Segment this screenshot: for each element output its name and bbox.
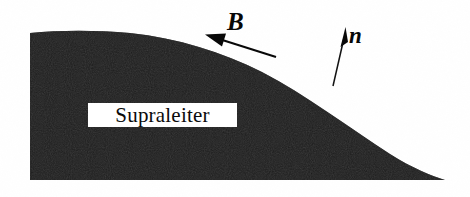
superconductor-label-text: Supraleiter xyxy=(115,105,209,126)
superconductor-label-box: Supraleiter xyxy=(88,103,237,127)
surface-normal-vector-label: n xyxy=(349,24,362,47)
figure-root: Supraleiter B n xyxy=(0,0,470,197)
magnetic-field-vector-label: B xyxy=(227,9,244,34)
